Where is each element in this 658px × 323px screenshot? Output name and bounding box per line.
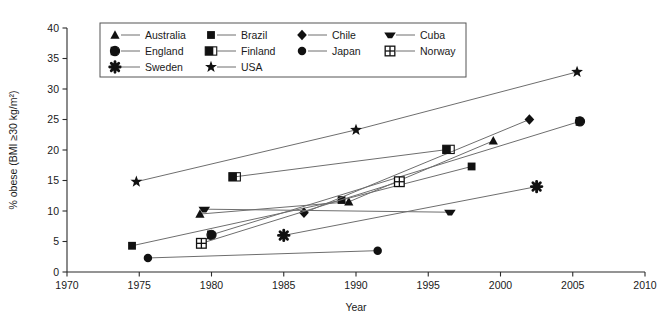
legend-label-norway: Norway [420,45,456,57]
x-axis-tick-label: 1970 [55,279,79,291]
legend-label-usa: USA [241,61,263,73]
data-point-england-1 [575,117,584,126]
x-axis-tick-label: 1995 [417,279,441,291]
data-point-england-0 [207,230,216,239]
data-point-brazil-0 [128,242,136,250]
y-axis-tick-label: 20 [47,144,59,156]
legend-marker-japan [298,47,306,55]
data-point-sweden-0 [278,230,289,241]
data-point-norway-1 [395,177,405,187]
data-point-brazil-2 [468,163,476,171]
x-axis-tick-label: 2000 [489,279,513,291]
data-point-japan-0 [144,254,152,262]
chart-figure: 1970197519801985199019952000200520100510… [0,0,658,323]
y-axis-tick-label: 40 [47,22,59,34]
chart-canvas: 1970197519801985199019952000200520100510… [0,0,658,323]
y-axis-tick-label: 10 [47,205,59,217]
y-axis-tick-label: 5 [53,235,59,247]
x-axis-tick-label: 1980 [200,279,224,291]
data-point-sweden-1 [531,181,542,192]
x-axis-tick-label: 1990 [344,279,368,291]
legend-label-finland: Finland [241,45,276,57]
legend-label-japan: Japan [332,45,361,57]
y-axis-tick-label: 15 [47,174,59,186]
data-point-norway-0 [197,239,207,249]
x-axis-title: Year [345,301,367,313]
legend-label-brazil: Brazil [241,29,267,41]
x-axis-tick-label: 2010 [633,279,657,291]
legend-marker-england [110,46,119,55]
legend-label-england: England [145,45,184,57]
chart-legend: AustraliaEnglandSwedenBrazilFinlandUSACh… [100,23,466,77]
y-axis-tick-label: 25 [47,113,59,125]
x-axis-tick-label: 1985 [272,279,296,291]
legend-label-cuba: Cuba [420,29,445,41]
legend-marker-norway [385,46,395,56]
y-axis-tick-label: 35 [47,52,59,64]
y-axis-tick-label: 30 [47,83,59,95]
x-axis-tick-label: 2005 [561,279,585,291]
legend-label-sweden: Sweden [145,61,183,73]
legend-label-chile: Chile [332,29,356,41]
data-point-japan-1 [373,246,381,254]
y-axis-title: % obese (BMI ≥30 kg/m²) [7,91,19,210]
x-axis-tick-label: 1975 [128,279,152,291]
legend-marker-brazil [207,31,215,39]
legend-label-australia: Australia [145,29,186,41]
y-axis-tick-label: 0 [53,266,59,278]
legend-marker-sweden [110,62,121,73]
